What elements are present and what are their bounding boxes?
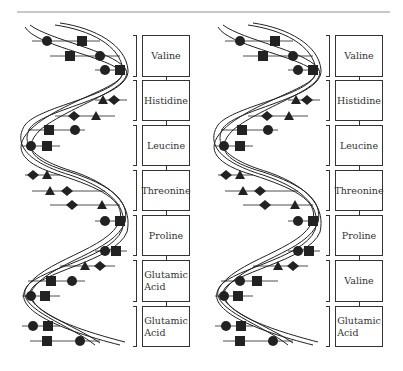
codon-brace xyxy=(326,260,330,302)
codon-brace xyxy=(133,80,137,121)
amino-acid-label: Glutamic Acid xyxy=(337,315,381,339)
amino-acid-box: Valine xyxy=(335,260,383,302)
amino-acid-box: Glutamic Acid xyxy=(142,260,190,302)
amino-acid-label: Glutamic Acid xyxy=(144,269,188,293)
amino-acid-label: Valine xyxy=(151,50,180,62)
amino-acid-label: Valine xyxy=(344,275,373,287)
amino-acid-label: Leucine xyxy=(147,140,185,152)
amino-acid-box: Valine xyxy=(142,35,190,77)
codon-brace xyxy=(326,306,330,347)
codon-brace xyxy=(326,170,330,211)
amino-acid-label: Leucine xyxy=(340,140,378,152)
codon-brace xyxy=(133,35,137,77)
codon-brace xyxy=(133,215,137,256)
codon-brace xyxy=(133,260,137,302)
amino-acid-label: Threonine xyxy=(141,185,190,197)
amino-acid-box: Histidine xyxy=(142,80,190,121)
amino-acid-box: Threonine xyxy=(142,170,190,211)
amino-acid-box: Threonine xyxy=(335,170,383,211)
amino-acid-box: Glutamic Acid xyxy=(142,306,190,347)
amino-acid-label: Glutamic Acid xyxy=(144,315,188,339)
codon-brace xyxy=(326,125,330,166)
amino-acid-box: Histidine xyxy=(335,80,383,121)
codon-brace xyxy=(326,35,330,77)
amino-acid-box: Proline xyxy=(335,215,383,256)
amino-acid-label: Histidine xyxy=(144,95,188,107)
codon-brace xyxy=(133,125,137,166)
amino-acid-label: Proline xyxy=(149,230,183,242)
amino-acid-label: Threonine xyxy=(334,185,383,197)
amino-acid-box: Valine xyxy=(335,35,383,77)
amino-acid-box: Proline xyxy=(142,215,190,256)
amino-acid-box: Leucine xyxy=(142,125,190,166)
codon-brace xyxy=(133,306,137,347)
codon-brace xyxy=(326,215,330,256)
codon-brace xyxy=(326,80,330,121)
amino-acid-box: Glutamic Acid xyxy=(335,306,383,347)
amino-acid-label: Proline xyxy=(342,230,376,242)
codon-brace xyxy=(133,170,137,211)
amino-acid-box: Leucine xyxy=(335,125,383,166)
amino-acid-label: Valine xyxy=(344,50,373,62)
amino-acid-label: Histidine xyxy=(337,95,381,107)
